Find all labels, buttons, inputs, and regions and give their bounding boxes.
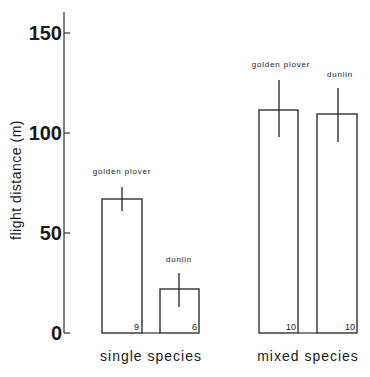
bar-mixed-golden-plover: golden plover 10 xyxy=(252,60,310,333)
y-tick-label-150: 150 xyxy=(29,22,62,44)
y-tick-label-100: 100 xyxy=(29,122,62,144)
sample-size-label: 10 xyxy=(345,322,355,332)
bar-chart: 0 50 100 150 flight distance (m) golden … xyxy=(0,0,370,377)
bar-label: golden plover xyxy=(252,60,310,69)
group-label-mixed-species: mixed species xyxy=(257,348,359,364)
bar-single-golden-plover: golden plover 9 xyxy=(93,167,151,333)
bar-label: dunlin xyxy=(327,70,353,79)
bar-label: golden plover xyxy=(93,167,151,176)
sample-size-label: 9 xyxy=(134,322,139,332)
sample-size-label: 10 xyxy=(286,322,296,332)
group-label-single-species: single species xyxy=(100,348,202,364)
bar-single-dunlin: dunlin 6 xyxy=(160,255,199,333)
bar-mixed-dunlin: dunlin 10 xyxy=(317,70,357,333)
y-tick-label-0: 0 xyxy=(51,322,62,344)
bar-label: dunlin xyxy=(166,255,192,264)
y-axis-title: flight distance (m) xyxy=(8,120,24,240)
y-tick-label-50: 50 xyxy=(40,222,62,244)
sample-size-label: 6 xyxy=(192,322,197,332)
